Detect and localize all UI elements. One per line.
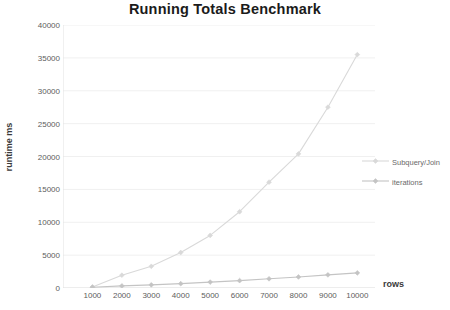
chart-title: Running Totals Benchmark xyxy=(0,1,450,17)
x-tick-label: 10000 xyxy=(346,291,368,300)
y-tick-label: 15000 xyxy=(14,185,60,194)
data-point-marker xyxy=(119,284,124,289)
x-tick-label: 9000 xyxy=(319,291,337,300)
y-axis-tick-labels: 0500010000150002000025000300003500040000 xyxy=(10,25,60,288)
y-tick-label: 5000 xyxy=(14,251,60,260)
y-tick-label: 10000 xyxy=(14,218,60,227)
plot-area xyxy=(63,25,375,288)
y-tick-label: 30000 xyxy=(14,86,60,95)
data-point-marker xyxy=(178,281,183,286)
y-tick-label: 40000 xyxy=(14,21,60,30)
series-line-subquery-join xyxy=(92,55,357,287)
legend-item-iterations: iterations xyxy=(392,178,422,187)
y-tick-label: 35000 xyxy=(14,53,60,62)
data-point-marker xyxy=(355,52,360,57)
x-axis-tick-labels: 1000200030004000500060007000800090001000… xyxy=(63,291,375,307)
data-point-marker xyxy=(178,250,183,255)
data-point-marker xyxy=(149,264,154,269)
data-point-marker xyxy=(90,285,95,288)
x-axis-label: rows xyxy=(383,279,404,289)
x-tick-label: 3000 xyxy=(142,291,160,300)
chart-container: Running Totals Benchmark runtime ms rows… xyxy=(0,0,450,310)
y-tick-label: 0 xyxy=(14,284,60,293)
data-point-marker xyxy=(296,275,301,280)
data-point-marker xyxy=(267,276,272,281)
x-tick-label: 1000 xyxy=(84,291,102,300)
x-tick-label: 7000 xyxy=(260,291,278,300)
x-tick-label: 4000 xyxy=(172,291,190,300)
legend-item-subquery-join: Subquery/Join xyxy=(392,158,440,167)
data-point-marker xyxy=(119,273,124,278)
data-point-marker xyxy=(237,278,242,283)
x-tick-label: 6000 xyxy=(231,291,249,300)
x-tick-label: 8000 xyxy=(290,291,308,300)
data-point-marker xyxy=(149,282,154,287)
series-line-iterations xyxy=(92,273,357,287)
x-tick-label: 5000 xyxy=(201,291,219,300)
y-tick-label: 20000 xyxy=(14,152,60,161)
data-point-marker xyxy=(326,272,331,277)
data-point-marker xyxy=(208,280,213,285)
plot-svg xyxy=(63,25,375,288)
y-tick-label: 25000 xyxy=(14,119,60,128)
x-tick-label: 2000 xyxy=(113,291,131,300)
data-point-marker xyxy=(355,270,360,275)
